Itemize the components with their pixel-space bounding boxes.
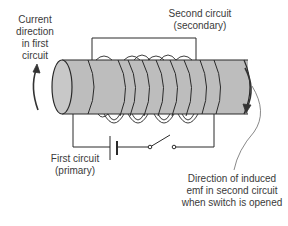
current-direction-label: Current direction in first circuit	[10, 14, 60, 62]
coil-loops-bottom	[98, 114, 198, 123]
label-line: direction	[10, 26, 60, 38]
primary-circuit-wire	[73, 114, 214, 147]
current-direction-arrow-icon	[33, 64, 40, 110]
battery-icon	[110, 136, 117, 160]
label-line: First circuit	[40, 153, 110, 165]
mutual-induction-diagram: Current direction in first circuit Secon…	[0, 0, 288, 226]
label-line: Direction of induced	[176, 173, 288, 185]
label-line: circuit	[10, 50, 60, 62]
label-line: Second circuit	[150, 8, 250, 20]
label-line: (primary)	[40, 165, 110, 177]
label-line: emf in second circuit	[176, 185, 288, 197]
coil-loops-top	[96, 55, 192, 60]
second-circuit-label: Second circuit (secondary)	[150, 8, 250, 32]
label-line: Current	[10, 14, 60, 26]
secondary-circuit-wire	[92, 38, 196, 62]
label-line: (secondary)	[150, 20, 250, 32]
label-line: in first	[10, 38, 60, 50]
induced-emf-label: Direction of induced emf in second circu…	[176, 173, 288, 209]
label-line: when switch is opened	[176, 197, 288, 209]
switch-icon	[148, 135, 176, 149]
first-circuit-label: First circuit (primary)	[40, 153, 110, 177]
